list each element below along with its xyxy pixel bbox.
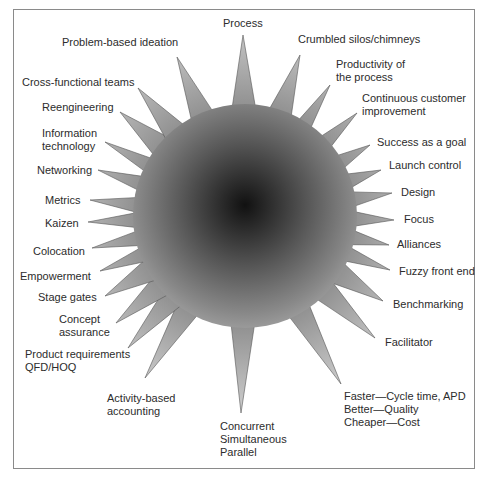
label-line: Networking [37,164,92,177]
label-success-goal: Success as a goal [377,136,466,149]
label-line: technology [42,140,97,153]
label-line: Concurrent [220,420,287,433]
label-stage-gates: Stage gates [38,291,97,304]
label-product-requirements: Product requirementsQFD/HOQ [25,348,130,374]
label-launch-control: Launch control [389,159,461,172]
spike-process [232,35,256,109]
label-line: Simultaneous [220,433,287,446]
label-activity-based: Activity-basedaccounting [107,392,175,418]
label-line: Information [42,127,97,140]
label-fuzzy-front-end: Fuzzy front end [399,265,475,278]
label-line: Metrics [45,194,80,207]
spike-design [350,192,392,207]
label-problem-based: Problem-based ideation [62,36,178,49]
label-line: improvement [362,105,466,118]
label-line: Alliances [397,238,441,251]
label-line: Facilitator [385,336,433,349]
central-disc [133,104,357,328]
label-line: Process [223,17,263,30]
label-process: Process [223,17,263,30]
label-line: Success as a goal [377,136,466,149]
label-line: Reengineering [42,101,114,114]
label-line: Faster—Cycle time, APD [344,390,466,403]
label-line: Focus [404,213,434,226]
label-benchmarking: Benchmarking [393,298,463,311]
label-line: QFD/HOQ [25,361,130,374]
label-line: Empowerment [20,270,91,283]
label-line: the process [336,71,405,84]
label-metrics: Metrics [45,194,80,207]
label-concept-assurance: Conceptassurance [59,313,110,339]
label-line: Problem-based ideation [62,36,178,49]
label-productivity: Productivity ofthe process [336,58,405,84]
label-line: Design [401,186,435,199]
label-line: Parallel [220,446,287,459]
label-line: Fuzzy front end [399,265,475,278]
label-crumbled-silos: Crumbled silos/chimneys [298,33,420,46]
label-colocation: Colocation [33,245,85,258]
label-facilitator: Facilitator [385,336,433,349]
label-line: Continuous customer [362,92,466,105]
label-line: accounting [107,405,175,418]
label-line: Benchmarking [393,298,463,311]
label-line: Crumbled silos/chimneys [298,33,420,46]
label-line: Concept [59,313,110,326]
label-line: Activity-based [107,392,175,405]
label-networking: Networking [37,164,92,177]
label-line: Launch control [389,159,461,172]
label-line: Product requirements [25,348,130,361]
label-concurrent: ConcurrentSimultaneousParallel [220,420,287,459]
label-information-technology: Informationtechnology [42,127,97,153]
label-line: Stage gates [38,291,97,304]
label-line: Cross-functional teams [22,76,135,89]
label-focus: Focus [404,213,434,226]
spike-concurrent [231,323,255,413]
label-line: assurance [59,326,110,339]
spike-kaizen [88,213,138,228]
label-line: Productivity of [336,58,405,71]
label-line: Kaizen [45,217,79,230]
spike-metrics [90,197,139,212]
label-design: Design [401,186,435,199]
label-empowerment: Empowerment [20,270,91,283]
label-faster-better-cheaper: Faster—Cycle time, APDBetter—QualityChea… [344,390,466,429]
label-alliances: Alliances [397,238,441,251]
label-cross-functional: Cross-functional teams [22,76,135,89]
spike-focus [352,211,394,226]
spike-colocation [92,231,141,248]
label-continuous-customer: Continuous customerimprovement [362,92,466,118]
label-reengineering: Reengineering [42,101,114,114]
label-line: Cheaper—Cost [344,416,466,429]
label-kaizen: Kaizen [45,217,79,230]
label-line: Colocation [33,245,85,258]
label-line: Better—Quality [344,403,466,416]
